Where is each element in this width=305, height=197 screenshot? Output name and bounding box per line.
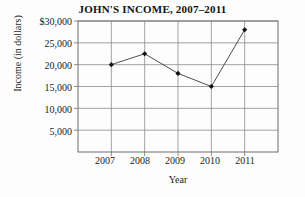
data-point-2009 (175, 71, 180, 76)
data-point-2008 (142, 51, 147, 56)
chart-figure: JOHN'S INCOME, 2007–2011 Income (in doll… (0, 0, 305, 197)
axis-ticks (74, 21, 245, 156)
plot-area (0, 0, 305, 197)
data-point-2010 (209, 84, 214, 89)
gridlines (78, 21, 278, 152)
data-point-2011 (242, 27, 247, 32)
data-point-2007 (109, 62, 114, 67)
